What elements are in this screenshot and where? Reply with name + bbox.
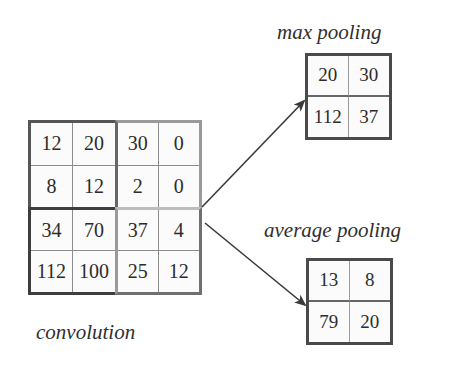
arrow-to-max-pooling-icon xyxy=(202,101,304,207)
arrows-layer xyxy=(0,0,460,376)
arrow-to-average-pooling-icon xyxy=(205,223,305,305)
